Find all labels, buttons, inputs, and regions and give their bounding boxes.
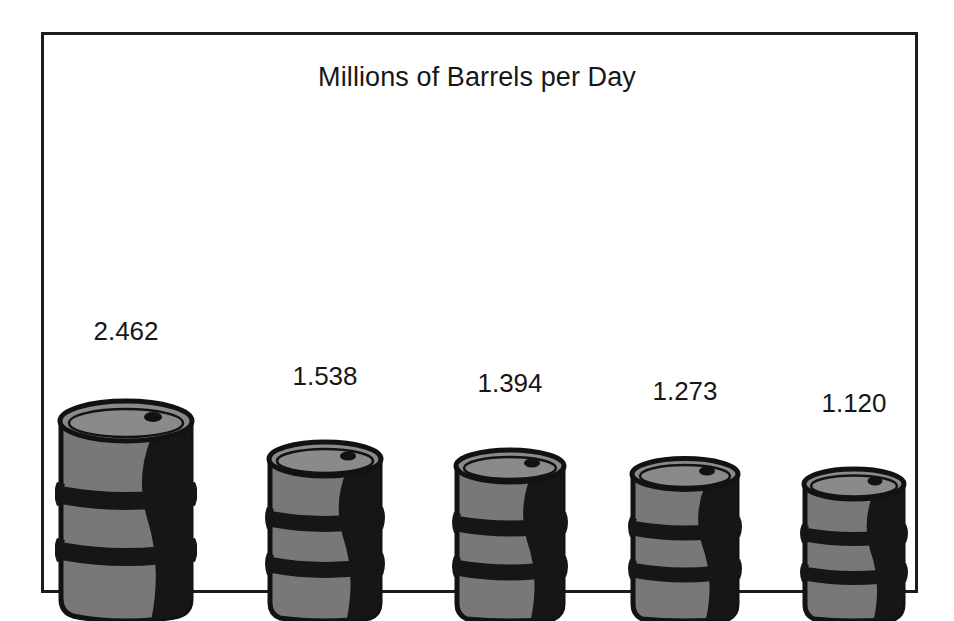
bar-group-canada[interactable]: 2.462 <box>55 136 197 621</box>
value-label-venezuela: 1.273 <box>628 376 742 407</box>
plot-area: 2.462 <box>0 0 954 621</box>
bar-group-nigeria[interactable]: 1.120 <box>800 136 908 621</box>
bar-group-saudi-arabia[interactable]: 1.394 <box>452 136 568 621</box>
value-label-mexico: 1.538 <box>265 361 385 392</box>
oil-barrel-icon-canada <box>55 398 197 621</box>
value-label-saudi-arabia: 1.394 <box>452 368 568 399</box>
value-label-canada: 2.462 <box>55 316 197 347</box>
chart-canvas: Millions of Barrels per Day 2.462 <box>0 0 954 621</box>
bar-group-venezuela[interactable]: 1.273 <box>628 136 742 621</box>
value-label-nigeria: 1.120 <box>800 388 908 419</box>
oil-barrel-icon-mexico <box>265 439 385 621</box>
bar-group-mexico[interactable]: 1.538 <box>265 136 385 621</box>
oil-barrel-icon-nigeria <box>800 466 908 621</box>
oil-barrel-icon-venezuela <box>628 455 742 621</box>
oil-barrel-icon-saudi-arabia <box>452 447 568 621</box>
